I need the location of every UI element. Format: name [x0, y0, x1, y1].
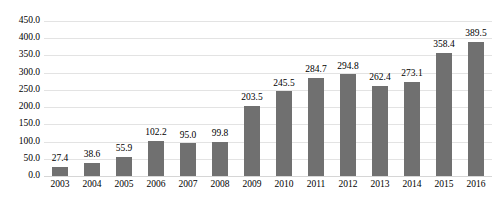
x-axis-tick-label: 2013 [371, 179, 390, 190]
y-axis-tick-label: 150.0 [0, 120, 40, 130]
bar-value-label: 95.0 [180, 131, 197, 141]
x-axis-tick-label: 2015 [435, 179, 454, 190]
y-axis: 0.050.0100.0150.0200.0250.0300.0350.0400… [0, 21, 40, 176]
bar-slot: 55.9 [108, 21, 140, 176]
bar[interactable] [404, 82, 420, 176]
bar-value-label: 294.8 [337, 62, 358, 72]
chart-title-cropped [0, 0, 500, 2]
bar-slot: 389.5 [460, 21, 492, 176]
bar-slot: 38.6 [76, 21, 108, 176]
bar-value-label: 389.5 [465, 29, 486, 39]
x-axis-tick-label: 2014 [403, 179, 422, 190]
x-axis-tick-label: 2006 [147, 179, 166, 190]
bar-value-label: 284.7 [305, 65, 326, 75]
bar-slot: 203.5 [236, 21, 268, 176]
x-axis-tick-label: 2016 [467, 179, 486, 190]
bar-slot: 284.7 [300, 21, 332, 176]
bar[interactable] [308, 78, 324, 176]
bar[interactable] [180, 143, 196, 176]
bar-slot: 273.1 [396, 21, 428, 176]
bar-value-label: 262.4 [369, 73, 390, 83]
bar[interactable] [244, 106, 260, 176]
x-axis-tick-label: 2007 [179, 179, 198, 190]
bar-slot: 294.8 [332, 21, 364, 176]
bar-value-label: 102.2 [145, 128, 166, 138]
x-axis-tick-label: 2003 [51, 179, 70, 190]
y-axis-tick-label: 350.0 [0, 51, 40, 61]
x-axis: 2003200420052006200720082009201020112012… [44, 179, 492, 193]
bar-slot: 262.4 [364, 21, 396, 176]
bar-slot: 358.4 [428, 21, 460, 176]
axis-baseline [44, 176, 492, 177]
bar-value-label: 273.1 [401, 69, 422, 79]
bar[interactable] [52, 167, 68, 176]
y-axis-tick-label: 0.0 [0, 171, 40, 181]
bar-slot: 27.4 [44, 21, 76, 176]
x-axis-tick-label: 2004 [83, 179, 102, 190]
bar-value-label: 99.8 [212, 129, 229, 139]
bar-slot: 102.2 [140, 21, 172, 176]
y-axis-tick-label: 400.0 [0, 33, 40, 43]
bar[interactable] [116, 157, 132, 176]
y-axis-tick-label: 450.0 [0, 16, 40, 26]
bar[interactable] [212, 142, 228, 176]
bar-slot: 95.0 [172, 21, 204, 176]
bars-layer: 27.438.655.9102.295.099.8203.5245.5284.7… [44, 21, 492, 176]
bar-value-label: 358.4 [433, 40, 454, 50]
y-axis-tick-label: 100.0 [0, 137, 40, 147]
bar-slot: 245.5 [268, 21, 300, 176]
bar[interactable] [468, 42, 484, 176]
x-axis-tick-label: 2011 [307, 179, 326, 190]
y-axis-tick-label: 200.0 [0, 102, 40, 112]
x-axis-tick-label: 2010 [275, 179, 294, 190]
bar-value-label: 203.5 [241, 93, 262, 103]
bar[interactable] [436, 53, 452, 176]
x-axis-tick-label: 2008 [211, 179, 230, 190]
bar-slot: 99.8 [204, 21, 236, 176]
x-axis-tick-label: 2009 [243, 179, 262, 190]
bar-value-label: 38.6 [84, 150, 101, 160]
bar-chart: 0.050.0100.0150.0200.0250.0300.0350.0400… [0, 0, 500, 200]
y-axis-tick-label: 50.0 [0, 154, 40, 164]
bar-value-label: 245.5 [273, 79, 294, 89]
bar-value-label: 55.9 [116, 144, 133, 154]
bar[interactable] [372, 86, 388, 176]
bar[interactable] [340, 74, 356, 176]
bar[interactable] [148, 141, 164, 176]
x-axis-tick-label: 2005 [115, 179, 134, 190]
y-axis-tick-label: 250.0 [0, 85, 40, 95]
x-axis-tick-label: 2012 [339, 179, 358, 190]
bar[interactable] [276, 91, 292, 176]
bar-value-label: 27.4 [52, 154, 69, 164]
y-axis-tick-label: 300.0 [0, 68, 40, 78]
bar[interactable] [84, 163, 100, 176]
